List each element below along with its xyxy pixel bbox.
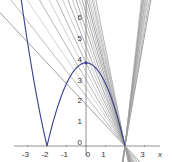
- x-tick-label: -1: [61, 150, 69, 159]
- y-tick-label: 2: [78, 96, 83, 105]
- y-tick-label: 3: [78, 76, 83, 85]
- y-tick-label: 6: [78, 13, 83, 22]
- y-tick-label: 1: [78, 117, 83, 126]
- y-tick-label: 4: [78, 55, 83, 64]
- x-tick-label: 1: [101, 150, 106, 159]
- marked-points: [84, 61, 87, 64]
- x-tick-label: -3: [22, 150, 30, 159]
- peak-point: [84, 61, 87, 64]
- y-tick-label: 0: [78, 138, 83, 147]
- y-tick-labels: 0123456: [78, 13, 83, 147]
- x-tick-label: 3: [140, 150, 145, 159]
- x-tick-label: 0: [86, 150, 91, 159]
- x-tick-label: -2: [41, 150, 49, 159]
- y-tick-label: 5: [78, 34, 83, 43]
- function-plot: -3-2-1013 0123456 x: [0, 0, 172, 162]
- x-axis-label: x: [157, 150, 163, 159]
